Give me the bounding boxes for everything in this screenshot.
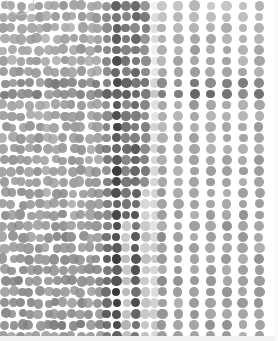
grid-dot xyxy=(0,199,7,208)
grid-dot xyxy=(157,1,168,12)
grid-dot xyxy=(57,166,67,176)
grid-dot xyxy=(17,79,25,87)
grid-dot xyxy=(189,221,200,232)
grid-dot xyxy=(113,200,121,208)
grid-dot xyxy=(238,111,248,121)
grid-dot xyxy=(88,122,96,130)
grid-dot xyxy=(222,287,231,296)
grid-dot xyxy=(222,309,233,320)
grid-dot xyxy=(140,277,149,286)
grid-dot xyxy=(140,309,150,319)
grid-dot xyxy=(190,211,198,219)
grid-dot xyxy=(206,133,216,143)
grid-dot xyxy=(27,298,35,306)
grid-dot xyxy=(53,276,62,285)
grid-dot xyxy=(131,46,140,55)
grid-dot xyxy=(25,232,35,242)
grid-dot xyxy=(67,67,77,77)
grid-dot xyxy=(94,35,102,43)
grid-dot xyxy=(206,200,214,208)
grid-dot xyxy=(254,309,264,319)
dot-matrix-figure xyxy=(0,0,278,341)
grid-dot xyxy=(70,34,78,42)
grid-dot xyxy=(174,90,182,98)
grid-dot xyxy=(254,144,264,154)
grid-dot xyxy=(206,90,215,99)
grid-dot xyxy=(70,122,80,132)
grid-dot xyxy=(222,13,231,22)
grid-dot xyxy=(0,144,8,154)
grid-dot xyxy=(189,298,199,308)
grid-dot xyxy=(102,134,111,143)
grid-dot xyxy=(58,44,68,54)
grid-dot xyxy=(102,23,112,33)
grid-dot xyxy=(76,0,86,10)
grid-dot xyxy=(174,155,183,164)
grid-dot xyxy=(77,221,86,230)
grid-dot xyxy=(58,133,67,142)
grid-dot xyxy=(111,188,121,198)
grid-dot xyxy=(189,133,199,143)
grid-dot xyxy=(238,309,248,319)
grid-dot xyxy=(44,320,53,329)
grid-dot xyxy=(131,177,140,186)
grid-dot xyxy=(112,34,122,44)
grid-dot xyxy=(23,320,33,330)
grid-dot xyxy=(121,320,131,330)
grid-dot xyxy=(158,299,167,308)
grid-dot xyxy=(238,12,248,22)
grid-dot xyxy=(92,66,102,76)
grid-dot xyxy=(239,178,247,186)
grid-dot xyxy=(130,166,140,176)
grid-dot xyxy=(174,210,183,219)
grid-dot xyxy=(121,122,131,132)
grid-dot xyxy=(151,255,159,263)
grid-dot xyxy=(174,244,183,253)
grid-dot xyxy=(112,310,121,319)
grid-dot xyxy=(95,243,104,252)
grid-dot xyxy=(173,23,183,33)
grid-dot xyxy=(103,277,111,285)
grid-dot xyxy=(16,243,26,253)
grid-dot xyxy=(239,210,248,219)
grid-dot xyxy=(16,34,26,44)
grid-dot xyxy=(14,276,23,285)
grid-dot xyxy=(238,221,248,231)
grid-dot xyxy=(206,178,215,187)
grid-dot xyxy=(32,57,41,66)
grid-dot xyxy=(103,123,111,131)
grid-dot xyxy=(237,243,248,254)
grid-dot xyxy=(24,67,33,76)
grid-dot xyxy=(111,276,121,286)
grid-dot xyxy=(84,166,94,176)
grid-dot xyxy=(189,144,200,155)
grid-dot xyxy=(157,320,167,330)
grid-dot xyxy=(95,320,104,329)
grid-dot xyxy=(69,178,79,188)
grid-dot xyxy=(174,133,183,142)
grid-dot xyxy=(140,243,149,252)
grid-dot xyxy=(206,166,215,175)
grid-dot xyxy=(254,221,264,231)
grid-dot xyxy=(121,177,131,187)
grid-dot xyxy=(67,56,77,66)
grid-dot xyxy=(150,266,158,274)
grid-dot xyxy=(35,199,45,209)
grid-dot xyxy=(112,177,121,186)
grid-dot xyxy=(122,221,131,230)
grid-dot xyxy=(131,254,141,264)
grid-dot xyxy=(141,211,150,220)
grid-dot xyxy=(93,1,102,10)
grid-dot xyxy=(238,276,247,285)
grid-dot xyxy=(103,35,111,43)
grid-dot xyxy=(238,188,248,198)
grid-dot xyxy=(190,254,200,264)
grid-dot xyxy=(61,232,71,242)
grid-dot xyxy=(43,200,52,209)
grid-dot xyxy=(130,23,140,33)
grid-dot xyxy=(18,46,27,55)
grid-dot xyxy=(173,144,183,154)
grid-dot xyxy=(16,113,25,122)
grid-dot xyxy=(0,155,9,164)
grid-dot xyxy=(60,287,70,297)
